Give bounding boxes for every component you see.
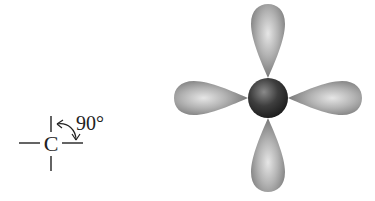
lobe-bottom <box>251 118 285 192</box>
lobe-top <box>251 4 285 78</box>
carbon-symbol: C <box>44 131 59 156</box>
angle-label: 90° <box>76 112 104 134</box>
lobe-left <box>174 81 248 115</box>
carbon-structure: C 90° <box>19 112 104 171</box>
diagram-canvas: C 90° <box>0 0 375 201</box>
lobe-right <box>288 81 362 115</box>
nucleus <box>248 78 288 118</box>
orbital-model <box>174 4 362 192</box>
